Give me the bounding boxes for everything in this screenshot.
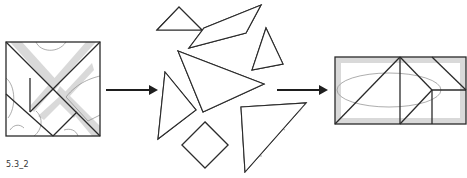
arrow-right-1	[106, 85, 158, 95]
diagram-canvas	[0, 0, 467, 178]
figure-caption: 5.3_2	[6, 160, 29, 169]
piece-large-triangle	[178, 51, 264, 112]
scattered-pieces	[157, 5, 306, 172]
piece-parallelogram	[189, 5, 261, 48]
assembled-rectangle	[335, 57, 466, 124]
piece-small-triangle-top	[157, 7, 202, 30]
piece-triangle-right	[252, 28, 283, 70]
piece-large-triangle-bottom	[241, 103, 306, 172]
piece-square	[182, 122, 228, 168]
arrow-right-2	[277, 85, 328, 95]
original-square	[6, 42, 100, 136]
